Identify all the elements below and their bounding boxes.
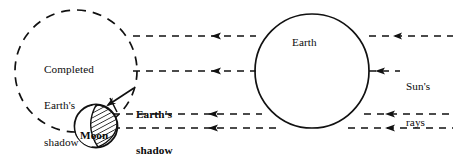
earth-shadow-on-moon-label: Earth's shadow on Moon — [136, 84, 179, 160]
sun-rays-label: Sun's rays — [406, 56, 430, 153]
sun-rays-line-2: rays — [406, 116, 430, 128]
shadow-pointer-arrow — [106, 88, 134, 112]
moon-shadow-line-2: shadow — [136, 144, 179, 156]
sun-rays-line-1: Sun's — [406, 80, 430, 92]
moon-label: Moon — [80, 129, 108, 141]
moon-shadow-line-1: Earth's — [136, 108, 179, 120]
completed-shadow-line-2: Earth's — [44, 99, 94, 111]
earth-circle — [255, 14, 369, 128]
lunar-eclipse-diagram: Completed Earth's shadow Earth's shadow … — [0, 0, 453, 160]
earth-label: Earth — [292, 36, 317, 48]
completed-shadow-line-1: Completed — [44, 63, 94, 75]
sun-ray-2 — [133, 67, 400, 74]
completed-earth-shadow-label: Completed Earth's shadow — [44, 39, 94, 160]
